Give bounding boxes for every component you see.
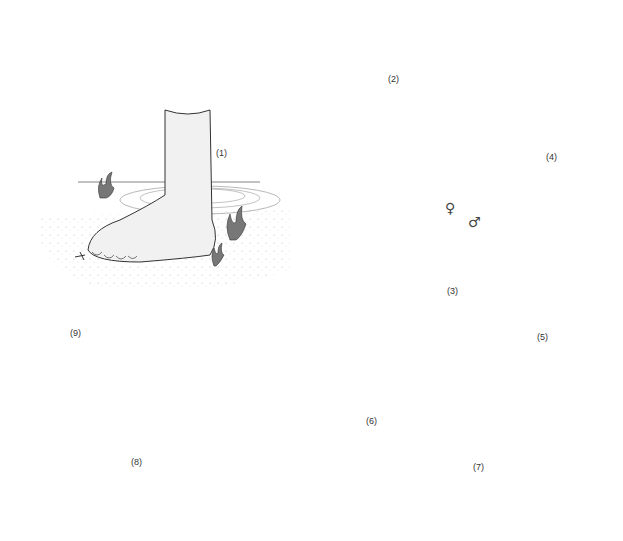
stage-3-label: (3) bbox=[447, 286, 458, 296]
male-symbol-icon: ♂ bbox=[468, 214, 481, 230]
stage-5-label: (5) bbox=[537, 332, 548, 342]
stage-7-label: (7) bbox=[473, 462, 484, 472]
stage-1-foot-in-water bbox=[40, 110, 290, 290]
stage-9-label: (9) bbox=[70, 328, 81, 338]
stage-4-label: (4) bbox=[546, 152, 557, 162]
female-symbol-icon: ♀ bbox=[445, 200, 455, 216]
stage-2-label: (2) bbox=[388, 74, 399, 84]
stage-6-label: (6) bbox=[366, 416, 377, 426]
life-cycle-illustration bbox=[0, 0, 623, 541]
stage-8-label: (8) bbox=[131, 457, 142, 467]
stage-1-label: (1) bbox=[216, 148, 227, 158]
